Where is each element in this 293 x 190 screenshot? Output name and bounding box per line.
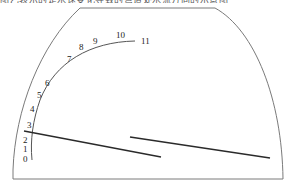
tick-label-4: 4 [30, 104, 35, 114]
tick-label-1: 1 [23, 144, 28, 154]
tick-label-11: 11 [141, 36, 150, 46]
tick-label-9: 9 [93, 36, 98, 46]
tick-label-5: 5 [37, 90, 42, 100]
line-1 [24, 131, 161, 157]
tick-label-7: 7 [67, 54, 72, 64]
tick-label-6: 6 [45, 78, 50, 88]
tick-label-3: 3 [27, 120, 32, 130]
tick-label-0: 0 [23, 154, 28, 164]
diagram: 0 1 2 3 4 5 6 7 8 9 10 11 [0, 0, 293, 190]
tick-label-2: 2 [23, 135, 28, 145]
tick-label-10: 10 [116, 30, 126, 40]
tick-label-8: 8 [79, 42, 84, 52]
